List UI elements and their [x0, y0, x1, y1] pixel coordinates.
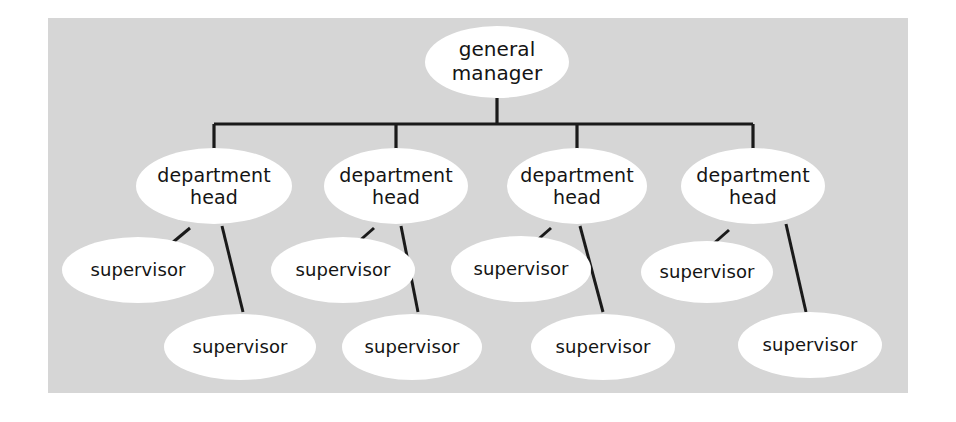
supervisor-1b[interactable]: supervisor [164, 314, 316, 380]
conn-dh4-sup4b [786, 224, 806, 312]
supervisor-3b-label: supervisor [555, 336, 650, 357]
department-head-4[interactable]: department head [681, 148, 825, 224]
supervisor-4a-label: supervisor [659, 261, 754, 282]
manager-to-heads-bus [214, 98, 753, 150]
general-manager[interactable]: general manager [425, 26, 569, 98]
department-head-4-label: department head [696, 164, 809, 209]
department-head-1-label: department head [157, 164, 270, 209]
department-head-1[interactable]: department head [136, 148, 292, 224]
supervisor-2a-label: supervisor [295, 259, 390, 280]
supervisor-2b-label: supervisor [364, 336, 459, 357]
supervisor-3b[interactable]: supervisor [531, 314, 675, 380]
supervisor-4a[interactable]: supervisor [641, 241, 773, 303]
conn-dh1-sup1b [222, 226, 243, 312]
supervisor-2b[interactable]: supervisor [342, 314, 482, 380]
supervisor-4b-label: supervisor [762, 334, 857, 355]
supervisor-3a-label: supervisor [473, 258, 568, 279]
supervisor-1a-label: supervisor [90, 259, 185, 280]
supervisor-2a[interactable]: supervisor [271, 237, 415, 303]
department-head-2[interactable]: department head [324, 148, 468, 224]
department-head-2-label: department head [339, 164, 452, 209]
org-chart-canvas: general managerdepartment headdepartment… [0, 0, 956, 422]
general-manager-label: general manager [452, 38, 543, 85]
department-head-3-label: department head [520, 164, 633, 209]
supervisor-1a[interactable]: supervisor [62, 237, 214, 303]
supervisor-3a[interactable]: supervisor [451, 236, 591, 302]
department-head-3[interactable]: department head [507, 148, 647, 224]
supervisor-1b-label: supervisor [192, 336, 287, 357]
supervisor-4b[interactable]: supervisor [738, 312, 882, 378]
